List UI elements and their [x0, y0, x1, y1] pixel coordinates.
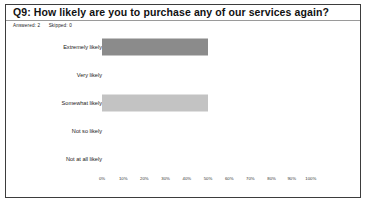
x-axis-tick: 80%	[267, 176, 276, 181]
bar-track	[102, 89, 314, 117]
chart-row: Not at all likely	[6, 145, 360, 173]
x-axis: 0% 10% 20% 30% 40% 50% 60% 70% 80% 90% 1…	[102, 176, 314, 190]
bar-rows: Extremely likely Very likely Somewhat li…	[6, 33, 360, 173]
x-axis-tick: 40%	[182, 176, 191, 181]
answered-count: Answered: 2	[13, 23, 40, 28]
x-axis-tick: 90%	[287, 176, 296, 181]
chart-row: Extremely likely	[6, 33, 360, 61]
x-axis-tick: 0%	[99, 176, 105, 181]
screenshot-root: Q9: How likely are you to purchase any o…	[0, 0, 373, 214]
skipped-count: Skipped: 0	[49, 23, 72, 28]
category-label: Somewhat likely	[62, 100, 102, 106]
category-label: Very likely	[77, 72, 102, 78]
bar-extremely-likely	[102, 39, 208, 56]
x-axis-tick: 50%	[204, 176, 213, 181]
bar-track	[102, 117, 314, 145]
x-axis-tick: 20%	[140, 176, 149, 181]
category-label: Extremely likely	[63, 44, 102, 50]
page-title: Q9: How likely are you to purchase any o…	[13, 6, 329, 18]
chart-row: Not so likely	[6, 117, 360, 145]
response-summary: Answered: 2 Skipped: 0	[13, 23, 79, 28]
x-axis-tick: 30%	[161, 176, 170, 181]
survey-question-panel: Q9: How likely are you to purchase any o…	[5, 4, 361, 198]
chart-row: Somewhat likely	[6, 89, 360, 117]
bar-somewhat-likely	[102, 95, 208, 112]
x-axis-tick: 60%	[225, 176, 234, 181]
x-axis-tick: 10%	[119, 176, 128, 181]
category-label: Not so likely	[72, 128, 102, 134]
x-axis-tick: 100%	[305, 176, 316, 181]
x-axis-tick: 70%	[246, 176, 255, 181]
chart-row: Very likely	[6, 61, 360, 89]
bar-chart: Extremely likely Very likely Somewhat li…	[6, 33, 360, 198]
bar-track	[102, 145, 314, 173]
bar-track	[102, 33, 314, 61]
bar-track	[102, 61, 314, 89]
category-label: Not at all likely	[66, 156, 102, 162]
panel-title-bar: Q9: How likely are you to purchase any o…	[6, 5, 360, 21]
